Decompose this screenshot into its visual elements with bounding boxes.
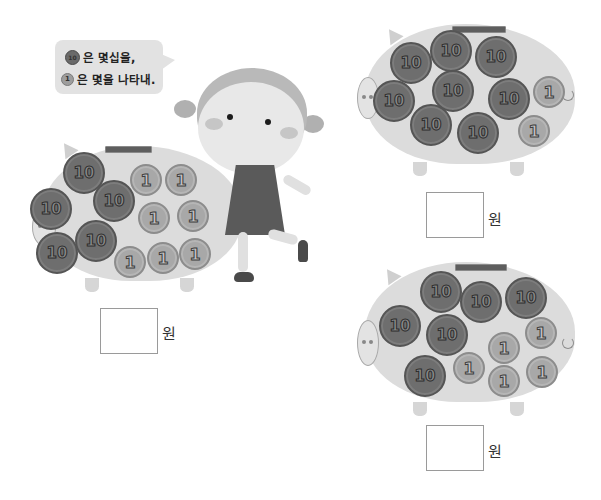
ten-won-coin: 10 [373, 80, 415, 122]
answer-box-bottom-right[interactable] [426, 425, 484, 471]
pig-leg [180, 278, 194, 292]
ten-won-coin: 10 [30, 188, 72, 230]
piggy-bank-bottom-right: 10 10 10 10 10 10 1 1 1 1 1 [355, 260, 580, 410]
one-won-coin: 1 [130, 164, 162, 196]
pig-leg [413, 162, 427, 176]
one-won-coin: 1 [518, 115, 550, 147]
one-won-coin: 1 [488, 332, 520, 364]
ten-won-coin: 10 [457, 112, 499, 154]
piggy-bank-top-right: 10 10 10 10 10 10 10 10 1 1 [355, 22, 580, 172]
girl-arm [282, 173, 313, 197]
one-won-coin: 1 [488, 365, 520, 397]
girl-leg [267, 228, 299, 245]
girl-pigtail [174, 100, 196, 118]
one-won-coin: 1 [179, 238, 211, 270]
pig-tail [562, 337, 574, 349]
unit-label-left: 원 [162, 322, 176, 343]
ten-won-coin: 10 [379, 305, 421, 347]
coin-slot [455, 264, 507, 271]
ten-won-coin: 10 [505, 277, 547, 319]
ten-won-coin: 10 [460, 281, 502, 323]
girl-leg [238, 232, 248, 272]
girl-eye [227, 114, 233, 120]
bubble-text-tens: 은 몇십을, [83, 49, 135, 65]
ten-won-coin: 10 [426, 314, 468, 356]
bubble-text-ones: 은 몇을 나타내. [77, 71, 155, 87]
unit-label-top-right: 원 [488, 208, 502, 229]
girl-shoe [234, 272, 254, 282]
ten-won-coin: 10 [93, 180, 135, 222]
pig-snout [357, 320, 379, 366]
bubble-line-ones: 1 은 몇을 나타내. [61, 71, 155, 87]
ten-won-coin: 10 [475, 36, 517, 78]
speech-bubble: 10 은 몇십을, 1 은 몇을 나타내. [55, 40, 163, 94]
one-won-coin: 1 [525, 317, 557, 349]
ten-won-coin: 10 [410, 104, 452, 146]
pig-leg [413, 402, 427, 416]
one-coin-icon: 1 [61, 73, 74, 86]
bubble-line-tens: 10 은 몇십을, [65, 49, 135, 65]
one-won-coin: 1 [114, 246, 146, 278]
ten-won-coin: 10 [36, 232, 78, 274]
answer-box-top-right[interactable] [426, 192, 484, 238]
girl-eye [265, 119, 271, 125]
one-won-coin: 1 [526, 356, 558, 388]
ten-won-coin: 10 [390, 42, 432, 84]
one-won-coin: 1 [165, 164, 197, 196]
unit-label-bottom-right: 원 [488, 440, 502, 461]
ten-won-coin: 10 [75, 220, 117, 262]
one-won-coin: 1 [453, 352, 485, 384]
ten-coin-icon: 10 [65, 50, 80, 65]
answer-box-left[interactable] [100, 308, 158, 354]
one-won-coin: 1 [138, 202, 170, 234]
ten-won-coin: 10 [430, 30, 472, 72]
pig-leg [85, 278, 99, 292]
one-won-coin: 1 [147, 242, 179, 274]
piggy-bank-left: 10 10 10 10 10 1 1 1 1 1 1 1 [30, 140, 245, 290]
pig-leg [510, 162, 524, 176]
coin-slot [105, 146, 152, 153]
pig-leg [510, 402, 524, 416]
girl-cheek [205, 118, 223, 130]
girl-shoe [298, 240, 308, 262]
one-won-coin: 1 [177, 200, 209, 232]
one-won-coin: 1 [533, 76, 565, 108]
girl-cheek [280, 127, 298, 139]
ten-won-coin: 10 [404, 355, 446, 397]
ten-won-coin: 10 [420, 271, 462, 313]
ten-won-coin: 10 [488, 78, 530, 120]
